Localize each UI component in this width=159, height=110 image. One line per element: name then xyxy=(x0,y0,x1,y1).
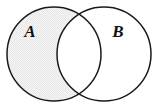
right-set-label: B xyxy=(111,22,123,41)
venn-diagram-figure: A B xyxy=(0,0,159,110)
venn-diagram-canvas: A B xyxy=(0,0,159,110)
left-set-label: A xyxy=(23,22,35,41)
